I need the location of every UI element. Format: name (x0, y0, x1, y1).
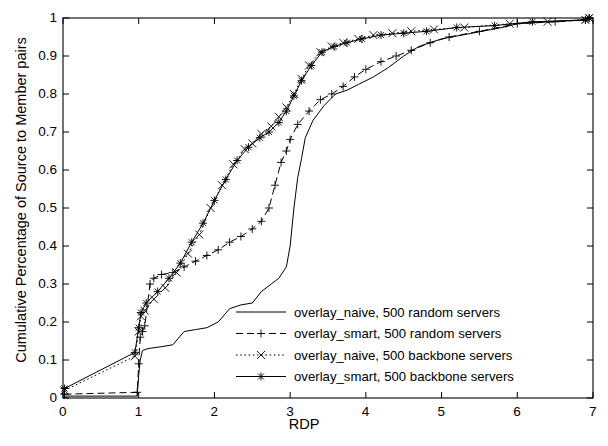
x-tick-label: 4 (362, 404, 370, 419)
y-tick-label: 0.6 (27, 162, 57, 177)
legend-label: overlay_smart, 500 backbone servers (294, 369, 514, 384)
y-tick-label: 0.9 (27, 48, 57, 63)
x-tick-label: 1 (135, 404, 143, 419)
y-tick-label: 1 (27, 10, 57, 25)
x-tick-label: 0 (59, 404, 67, 419)
y-tick-label: 0.7 (27, 124, 57, 139)
legend-label: overlay_smart, 500 random servers (294, 326, 502, 341)
plot-frame (63, 18, 593, 398)
x-tick-label: 5 (438, 404, 446, 419)
legend: overlay_naive, 500 random serversoverlay… (236, 305, 514, 385)
legend-label: overlay_naive, 500 random servers (294, 305, 500, 320)
y-tick-label: 0 (27, 390, 57, 405)
y-tick-label: 0.5 (27, 200, 57, 215)
legend-label: overlay_naive, 500 backbone servers (294, 348, 513, 363)
legend-marker (257, 330, 265, 338)
y-tick-label: 0.4 (27, 238, 57, 253)
y-tick-label: 0.2 (27, 314, 57, 329)
x-tick-label: 2 (210, 404, 218, 419)
plot-area: overlay_naive, 500 random serversoverlay… (0, 0, 608, 446)
x-tick-label: 7 (589, 404, 597, 419)
y-tick-label: 0.8 (27, 86, 57, 101)
y-tick-label: 0.1 (27, 352, 57, 367)
legend-marker (257, 373, 265, 381)
chart-container: Cumulative Percentage of Source to Membe… (0, 0, 608, 446)
x-tick-label: 3 (286, 404, 294, 419)
y-tick-label: 0.3 (27, 276, 57, 291)
x-tick-label: 6 (513, 404, 521, 419)
